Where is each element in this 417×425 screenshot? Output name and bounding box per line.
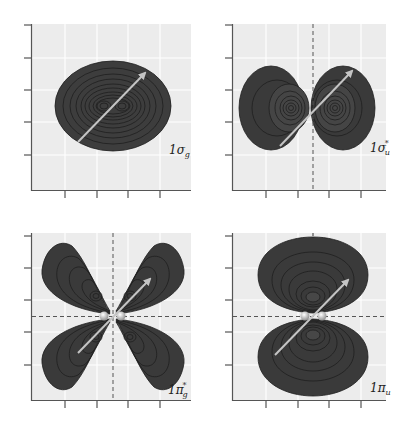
panel-1pi-g-star: 1π*g — [24, 233, 191, 408]
nucleus-left — [301, 312, 310, 321]
orbital-lobe-bottom — [258, 319, 368, 396]
orbital-label: 1πu — [370, 381, 391, 397]
orbital-label: 1σ*u — [370, 139, 390, 157]
nucleus-left — [100, 312, 109, 321]
panel-1pi-u: 1πu — [225, 233, 391, 408]
nucleus-right — [117, 312, 126, 321]
panel-1sigma-g: 1σg — [24, 24, 191, 198]
panel-1sigma-u-star: 1σ*u — [225, 24, 390, 198]
orbital-label: 1π*g — [168, 381, 188, 399]
nucleus-right — [318, 312, 327, 321]
orbital-lobe-top — [258, 237, 368, 313]
orbital-lobe-right — [311, 66, 375, 150]
orbital-figure: 1σg — [0, 0, 417, 425]
